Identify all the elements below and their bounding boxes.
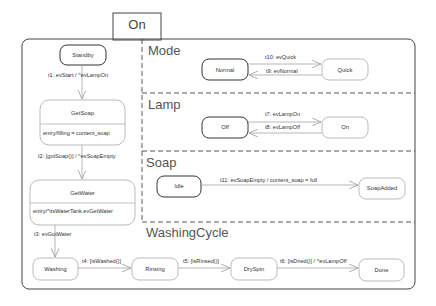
state-standby-label: Standby	[60, 52, 106, 58]
transition-t9-label: t9: evNormal	[266, 68, 298, 74]
state-done-label: Done	[359, 267, 404, 273]
transition-t2-label: t2: [gotSoap()] / ^evSoapEmpty	[38, 153, 116, 159]
region-title-washingcycle: WashingCycle	[146, 225, 229, 240]
state-normal-label: Normal	[202, 67, 248, 73]
transition-t1-label: t1: evStart / ^evLampOn	[48, 72, 108, 78]
state-getwater-label: GetWater	[30, 190, 135, 196]
transition-t7-label: t7: evLampOn	[265, 111, 300, 117]
state-getsoap[interactable]	[40, 100, 125, 145]
transition-t11-label: t11: evSoapEmpty / content_soap = full	[220, 177, 317, 183]
state-lamp-on-label: On	[322, 124, 368, 130]
state-getwater[interactable]	[30, 180, 135, 225]
state-soapadded-label: SoapAdded	[359, 185, 405, 191]
composite-state-name: On	[113, 17, 161, 32]
state-getwater-entry: entry/^itsWaterTank.evGetWater	[33, 208, 113, 214]
transition-t10-label: t10: evQuick	[265, 54, 296, 60]
transition-t5-label: t5: [isRinsed()]	[183, 258, 219, 264]
transition-t8-label: t8: evLampOff	[265, 124, 300, 130]
state-quick-label: Quick	[322, 67, 368, 73]
transition-t3-label: t3: evGotWater	[34, 231, 71, 237]
state-dryspin-label: DrySpin	[231, 266, 277, 272]
state-rinsing-label: Rinsing	[132, 266, 178, 272]
state-off-label: Off	[202, 124, 248, 130]
state-idle-label: Idle	[157, 183, 201, 189]
state-getsoap-label: GetSoap	[40, 110, 125, 116]
region-title-lamp: Lamp	[148, 97, 181, 112]
region-title-mode: Mode	[148, 43, 181, 58]
region-title-soap: Soap	[146, 155, 176, 170]
transition-t4-label: t4: [isWashed()]	[82, 258, 121, 264]
state-washing-label: Washing	[33, 266, 78, 272]
state-getsoap-entry: entry/filling = content_soap	[43, 130, 110, 136]
transition-t6-label: t6: [isDried()] / ^evLampOff	[280, 258, 347, 264]
